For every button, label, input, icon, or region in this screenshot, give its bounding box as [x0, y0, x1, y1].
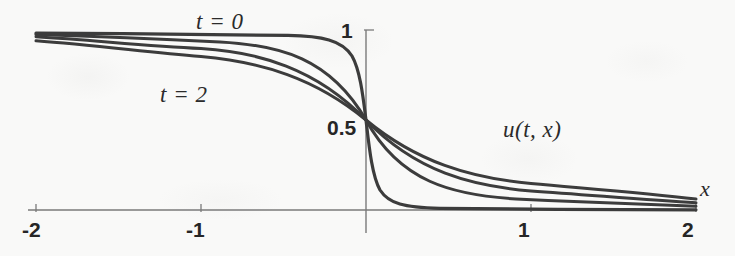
function-label: u(t, x) [503, 118, 561, 141]
y-tick-label-0.5: 0.5 [327, 117, 356, 138]
plot-canvas [0, 0, 735, 256]
curve-label-t2: t = 2 [160, 83, 207, 106]
x-tick-label-minus2: -2 [22, 219, 41, 240]
curve-label-t0: t = 0 [196, 10, 243, 33]
x-axis-label: x [700, 178, 710, 200]
figure-container: t = 0 t = 2 u(t, x) x 1 0.5 -2 -1 1 2 [0, 0, 735, 256]
x-tick-label-minus1: -1 [186, 219, 205, 240]
x-tick-label-plus2: 2 [682, 219, 694, 240]
x-tick-label-plus1: 1 [518, 219, 530, 240]
y-tick-label-1: 1 [341, 20, 353, 41]
